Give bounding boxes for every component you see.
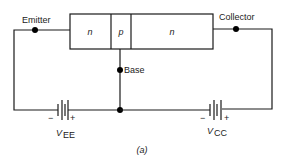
emitter-circuit: Emitter [14,15,70,110]
collector-circuit: Collector [213,12,272,109]
vcc-minus-sign: − [200,113,205,123]
figure-caption: (a) [137,145,148,155]
base-circuit: Base [117,49,145,113]
vee-minus-sign: − [48,113,53,123]
vee-plus-sign: + [70,113,75,123]
collector-wire [213,29,272,109]
base-terminal-dot [117,67,123,73]
vcc-battery: − + V CC [120,100,229,138]
vee-subscript: EE [63,130,75,140]
vee-battery: − + V EE [48,100,120,140]
transistor-circuit-diagram: n p n Emitter − + V EE Base Collector [0,0,283,163]
emitter-wire [14,30,70,110]
vcc-plus-sign: + [224,113,229,123]
base-label: Base [124,65,145,75]
emitter-region-label: n [87,27,92,37]
base-region-label: p [117,27,123,37]
collector-terminal-dot [233,26,239,32]
collector-label: Collector [219,12,255,22]
emitter-label: Emitter [22,15,51,25]
vcc-subscript: CC [214,128,227,138]
vcc-label: V [207,126,214,136]
emitter-terminal-dot [32,27,38,33]
collector-region-label: n [169,27,174,37]
vee-label: V [56,128,63,138]
transistor-block: n p n [70,14,213,49]
